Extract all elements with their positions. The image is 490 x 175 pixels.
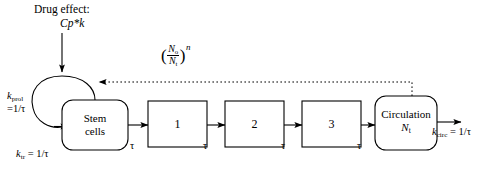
stem-cells-line1: Stem: [62, 112, 128, 125]
feedback-dotted-path: [99, 82, 412, 96]
k-prol-label: kprol =1/τ: [7, 90, 25, 114]
feedback-denominator: Nt: [168, 56, 179, 67]
k-tr-value: = 1/τ: [25, 148, 49, 159]
transit-2-label: 2: [225, 117, 284, 131]
circulation-line2: Nt: [373, 121, 439, 136]
proliferation-loop-arc-right: [62, 76, 95, 100]
tau-label-2: τ: [203, 140, 207, 151]
transit-3-label: 3: [302, 117, 361, 131]
drug-effect-expression: Cp*k: [60, 17, 84, 29]
tau-label-4: τ: [357, 140, 361, 151]
transit-1-label: 1: [148, 117, 207, 131]
tau-label-1: τ: [130, 140, 134, 151]
drug-effect-label: Drug effect:: [34, 3, 90, 15]
circulation-label: Circulation Nt: [373, 108, 439, 136]
stem-cells-line2: cells: [62, 125, 128, 138]
stem-cells-label: Stem cells: [62, 112, 128, 138]
tau-label-3: τ: [281, 140, 285, 151]
feedback-fraction: No Nt: [167, 44, 179, 67]
feedback-close-paren: ): [180, 47, 186, 64]
feedback-numerator: No: [167, 44, 179, 55]
model-diagram: Drug effect: Cp*k kprol =1/τ ktr = 1/τ k…: [0, 0, 490, 175]
feedback-expression: ( No Nt ) n: [161, 44, 190, 67]
proliferation-loop-arc: [32, 76, 62, 127]
k-prol-value: =1/τ: [7, 103, 25, 114]
k-circ-value: = 1/τ: [447, 126, 471, 137]
feedback-open-paren: (: [161, 47, 167, 64]
k-prol-subscript: prol: [12, 95, 23, 103]
circulation-line1: Circulation: [373, 108, 439, 121]
feedback-exponent: n: [186, 42, 191, 52]
k-tr-label: ktr = 1/τ: [16, 148, 49, 161]
